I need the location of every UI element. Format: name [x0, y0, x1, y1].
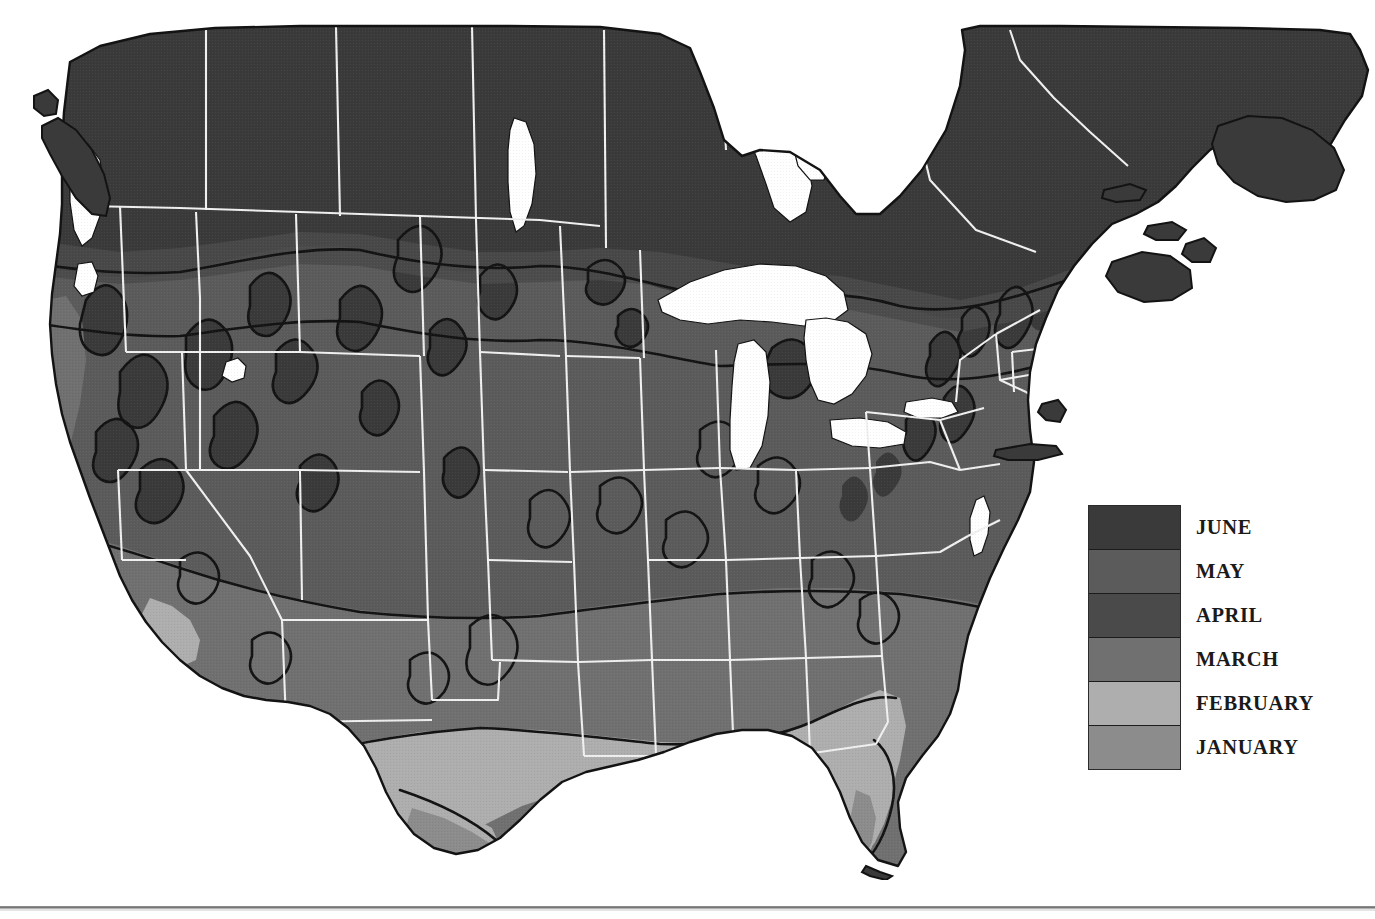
legend-swatch-january: [1089, 726, 1180, 769]
legend-swatch-column: [1088, 505, 1181, 770]
legend-label-june: JUNE: [1196, 505, 1338, 549]
florida-keys: [862, 866, 892, 880]
legend-swatch-june: [1089, 506, 1180, 550]
month-legend: JUNE MAY APRIL MARCH FEBRUARY JANUARY: [1088, 505, 1338, 773]
legend-label-march: MARCH: [1196, 638, 1338, 682]
nova-scotia: [1106, 252, 1192, 302]
haida-gwaii: [34, 90, 58, 116]
legend-swatch-may: [1089, 550, 1180, 594]
map-page: JUNE MAY APRIL MARCH FEBRUARY JANUARY: [0, 0, 1375, 919]
legend-swatch-april: [1089, 594, 1180, 638]
legend-label-column: JUNE MAY APRIL MARCH FEBRUARY JANUARY: [1196, 505, 1338, 770]
cape-breton: [1182, 238, 1216, 262]
legend-label-april: APRIL: [1196, 593, 1338, 637]
legend-swatch-march: [1089, 638, 1180, 682]
prince-edward-island: [1144, 222, 1186, 240]
cape-cod: [1038, 400, 1066, 422]
legend-label-january: JANUARY: [1196, 726, 1338, 770]
page-bottom-rule-shadow: [0, 909, 1375, 911]
legend-swatch-february: [1089, 682, 1180, 726]
legend-label-may: MAY: [1196, 549, 1338, 593]
lake-okeechobee: [940, 738, 956, 756]
legend-label-february: FEBRUARY: [1196, 682, 1338, 726]
